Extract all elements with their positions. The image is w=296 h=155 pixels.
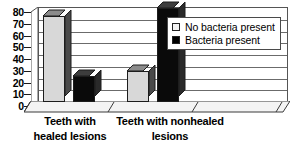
legend-label: Bacteria present bbox=[185, 34, 260, 46]
y-tick-label-80: 80 bbox=[0, 8, 24, 17]
chart-legend: No bacteria present Bacteria present bbox=[167, 17, 281, 50]
bar-no-bacteria-healed bbox=[43, 16, 65, 102]
y-tick-label-10: 10 bbox=[0, 90, 24, 99]
y-tick-mark bbox=[24, 24, 31, 25]
bar-side-face bbox=[95, 70, 101, 96]
y-tick-mark bbox=[24, 59, 31, 60]
bar-side-face bbox=[65, 10, 71, 96]
y-tick-mark bbox=[24, 83, 31, 84]
y-tick-label-0: 0 bbox=[0, 102, 24, 111]
bar-chart: 80 70 60 50 40 30 20 10 0 bbox=[0, 0, 296, 155]
x-category-label-nonhealed-line1: Teeth with nonhealed bbox=[114, 114, 226, 128]
y-tick-label-40: 40 bbox=[0, 55, 24, 64]
y-tick-label-50: 50 bbox=[0, 43, 24, 52]
legend-label: No bacteria present bbox=[185, 21, 275, 33]
bar-front-face bbox=[73, 76, 95, 102]
legend-item-no-bacteria: No bacteria present bbox=[172, 20, 275, 33]
y-tick-mark bbox=[24, 94, 31, 95]
y-tick-label-60: 60 bbox=[0, 31, 24, 40]
y-tick-mark bbox=[24, 36, 31, 37]
x-category-label-nonhealed-line2: lesions bbox=[114, 129, 226, 143]
y-tick-label-20: 20 bbox=[0, 78, 24, 87]
legend-swatch-dark-square-icon bbox=[172, 36, 180, 44]
legend-swatch-light-square-icon bbox=[172, 23, 180, 31]
bar-front-face bbox=[43, 16, 65, 102]
y-tick-mark bbox=[24, 12, 31, 13]
x-category-label-healed-line1: Teeth with bbox=[24, 114, 116, 128]
bar-side-face bbox=[149, 65, 155, 96]
bar-bacteria-healed bbox=[73, 76, 95, 102]
bar-no-bacteria-nonhealed bbox=[127, 71, 149, 102]
y-tick-label-30: 30 bbox=[0, 66, 24, 75]
y-tick-label-70: 70 bbox=[0, 19, 24, 28]
y-tick-mark bbox=[24, 71, 31, 72]
y-tick-mark bbox=[24, 47, 31, 48]
y-axis-labels: 80 70 60 50 40 30 20 10 0 bbox=[0, 12, 24, 106]
x-category-label-healed-line2: healed lesions bbox=[24, 129, 116, 143]
bar-front-face bbox=[127, 71, 149, 102]
legend-item-bacteria: Bacteria present bbox=[172, 33, 275, 46]
x-axis-labels: Teeth with healed lesions Teeth with non… bbox=[0, 114, 296, 154]
